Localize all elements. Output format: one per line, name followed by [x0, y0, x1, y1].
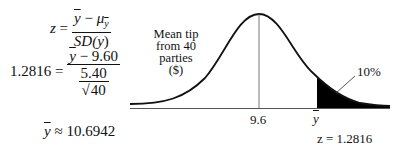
shaded-tail-area — [317, 77, 390, 108]
z-label: z = 1.2816 — [317, 131, 372, 147]
area-leader-line — [336, 76, 355, 93]
mean-tick-label: 9.6 — [250, 112, 266, 128]
ybar-tick-label: y — [313, 111, 319, 127]
curve-label: Mean tip from 40 parties ($) — [146, 28, 206, 76]
curve-label-line: ($) — [146, 64, 206, 76]
area-label: 10% — [357, 64, 381, 80]
z-label-text: z = 1.2816 — [317, 131, 372, 146]
